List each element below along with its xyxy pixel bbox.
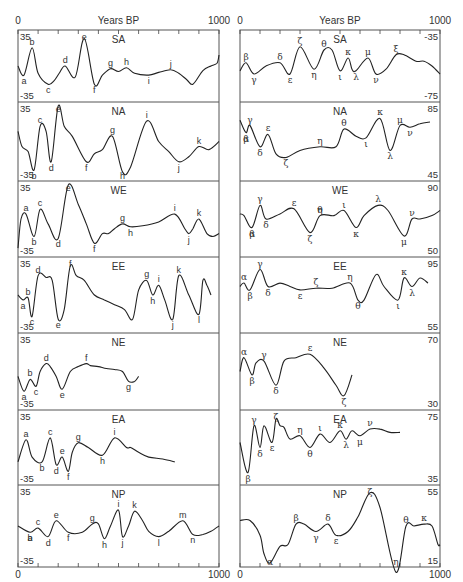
right-column: Years BP0100001000SA-35-75βγδεζηθικλμνξN… [237, 15, 451, 580]
panel-title: NA [333, 106, 347, 117]
annotation-label: β [243, 52, 248, 62]
panel-left-sa: SA35-35abcdefghij [18, 31, 219, 101]
annotation-label: h [128, 228, 133, 238]
series-line [18, 510, 219, 539]
annotation-label: γ [251, 415, 256, 425]
annotation-label: η [317, 136, 322, 146]
y-min-label: 15 [427, 555, 438, 566]
annotation-label: e [56, 104, 61, 114]
y-max-label: 55 [427, 486, 438, 497]
panel-title: SA [333, 34, 347, 45]
annotation-label: ι [364, 139, 368, 149]
annotation-label: a [21, 301, 26, 311]
annotation-label: l [158, 538, 160, 548]
annotation-label: d [46, 538, 51, 548]
annotation-label: γ [257, 259, 262, 269]
annotation-label: θ [341, 118, 346, 128]
annotation-label: a [22, 392, 27, 402]
annotation-label: h [100, 456, 105, 466]
annotation-label: c [36, 517, 41, 527]
annotation-label: f [85, 353, 88, 363]
annotation-label: η [347, 272, 352, 282]
series-line [18, 39, 219, 86]
annotation-label: θ [317, 205, 322, 215]
annotation-label: λ [343, 440, 349, 450]
annotation-label: ε [308, 343, 313, 353]
annotation-label: g [90, 513, 95, 523]
annotation-label: κ [345, 47, 351, 57]
annotation-label: α [267, 557, 273, 567]
annotation-label: ι [396, 301, 400, 311]
panel-title: WE [332, 185, 348, 196]
annotation-label: η [393, 557, 398, 567]
annotation-label: i [174, 203, 176, 213]
annotation-label: j [169, 59, 172, 69]
annotation-label: b [28, 533, 33, 543]
annotation-label: ε [334, 536, 339, 546]
annotation-label: l [198, 315, 200, 325]
panel-left-ne: NE35-35abcdefg [18, 333, 219, 409]
annotation-label: i [158, 274, 160, 284]
annotation-label: g [110, 125, 115, 135]
panel-left-we: WE35-35abcdefghijk [18, 181, 219, 256]
x-axis-title: Years BP [98, 15, 140, 26]
annotation-label: γ [257, 194, 262, 204]
series-line [18, 264, 211, 321]
panel-title: NA [112, 106, 126, 117]
annotation-label: a [24, 203, 29, 213]
annotation-label: c [34, 387, 39, 397]
annotation-label: g [126, 382, 131, 392]
series-line [240, 269, 428, 302]
y-max-label: 35 [20, 411, 31, 422]
panel-title: EE [112, 261, 126, 272]
panel-title: SA [112, 34, 126, 45]
panel-left-ea: EA35-35abcdefghi [18, 410, 219, 484]
annotation-label: b [32, 171, 37, 181]
annotation-label: j [121, 538, 124, 548]
annotation-label: ζ [342, 397, 347, 407]
panel-right-sa: SA-35-75βγδεζηθικλμνξ [240, 31, 440, 101]
annotation-label: γ [247, 115, 252, 125]
annotation-label: d [44, 353, 49, 363]
annotation-label: c [38, 115, 43, 125]
panel-right-na: NA8545αβγδεζηθικλμν [240, 102, 440, 180]
x-tick-label-start-bottom: 0 [237, 569, 243, 580]
annotation-label: μ [397, 115, 403, 125]
annotation-label: e [60, 390, 65, 400]
annotation-label: i [118, 499, 120, 509]
y-min-label: -35 [20, 473, 34, 484]
y-max-label: 35 [20, 258, 31, 269]
annotation-label: d [63, 55, 68, 65]
x-tick-label-end: 1000 [208, 15, 231, 26]
annotation-label: ε [266, 123, 271, 133]
annotation-label: λ [409, 288, 415, 298]
panel-title: NE [112, 337, 126, 348]
annotation-label: θ [355, 301, 360, 311]
annotation-label: b [40, 463, 45, 473]
y-max-label: 35 [20, 103, 31, 114]
series-line [240, 354, 352, 396]
panel-right-we: WE9050αβγδεζηθικλμν [240, 181, 440, 256]
annotation-label: β [249, 229, 254, 239]
annotation-label: κ [353, 229, 359, 239]
annotation-label: f [93, 85, 96, 95]
annotation-label: δ [325, 513, 330, 523]
annotation-label: λ [353, 72, 359, 82]
annotation-label: ζ [314, 277, 319, 287]
annotation-label: λ [387, 151, 393, 161]
annotation-label: j [187, 235, 190, 245]
annotation-label: α [241, 272, 247, 282]
annotation-label: ζ [298, 36, 303, 46]
annotation-label: δ [263, 220, 268, 230]
annotation-label: c [30, 317, 35, 327]
y-max-label: -35 [424, 31, 438, 42]
panel-right-ne: NE7030αβγδεζ [240, 333, 440, 409]
annotation-label: e [56, 320, 61, 330]
annotation-label: δ [277, 52, 282, 62]
y-min-label: -35 [20, 90, 34, 101]
x-tick-label-end-bottom: 1000 [429, 569, 452, 580]
annotation-label: i [113, 427, 115, 437]
annotation-label: j [177, 163, 180, 173]
series-line [240, 47, 440, 75]
annotation-label: b [26, 287, 31, 297]
